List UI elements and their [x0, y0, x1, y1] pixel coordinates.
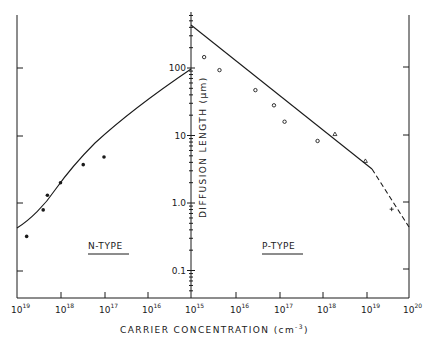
x-tick-labels: 1019101810171016101510161017101810191020 — [11, 302, 422, 315]
x-tick-label: 1020 — [403, 302, 422, 315]
p-type-circle-point — [283, 120, 286, 123]
x-axis-title-main: CARRIER CONCENTRATION (cm — [120, 325, 295, 335]
x-axis-title-close: ) — [304, 325, 309, 335]
x-tick-label: 1016 — [142, 302, 161, 315]
x-axis-title: CARRIER CONCENTRATION (cm-3) — [120, 323, 309, 335]
p-type-triangle-point — [333, 132, 337, 136]
p-type-cross-point — [390, 207, 394, 211]
p-type-circle-point — [202, 55, 205, 58]
p-type-circle-point — [272, 104, 275, 107]
y-tick-label: 10 — [175, 131, 187, 141]
p-type-circle-point — [254, 88, 257, 91]
y-tick-labels: 100101.00.1 — [169, 63, 186, 276]
x-tick-label: 1017 — [274, 302, 293, 315]
n-type-data-point — [102, 155, 106, 159]
x-axis-title-exp: -3 — [295, 323, 304, 330]
n-type-label: N-TYPE — [88, 241, 123, 251]
x-tick-label: 1018 — [55, 302, 74, 315]
data-markers — [25, 55, 394, 238]
p-type-circle-point — [218, 68, 221, 71]
p-type-curve-dashed — [372, 169, 409, 227]
n-type-data-point — [25, 235, 29, 239]
x-tick-label: 1016 — [230, 302, 249, 315]
y-axis-title: DIFFUSION LENGTH (µm) — [198, 76, 208, 218]
y-tick-label: 100 — [169, 63, 186, 73]
diffusion-length-chart: 100101.00.1 1019101810171016101510161017… — [0, 0, 434, 344]
x-tick-label: 1019 — [361, 302, 380, 315]
n-type-data-point — [59, 181, 63, 185]
n-type-data-point — [81, 163, 85, 167]
n-type-data-point — [46, 194, 50, 198]
x-tick-label: 1015 — [185, 302, 204, 315]
x-axis-ticks — [61, 292, 367, 298]
x-tick-label: 1019 — [11, 302, 30, 315]
x-tick-label: 1017 — [99, 302, 118, 315]
side-axis-ticks — [17, 67, 409, 271]
p-type-circle-point — [316, 139, 319, 142]
n-type-data-point — [41, 208, 45, 212]
y-tick-label: 0.1 — [172, 266, 186, 276]
x-tick-label: 1018 — [317, 302, 336, 315]
p-type-curve — [191, 25, 372, 169]
p-type-label: P-TYPE — [262, 241, 295, 251]
curves — [17, 25, 409, 228]
axes — [17, 12, 409, 298]
n-type-curve — [17, 69, 191, 228]
y-tick-label: 1.0 — [172, 198, 187, 208]
p-type-triangle-point — [363, 159, 367, 163]
